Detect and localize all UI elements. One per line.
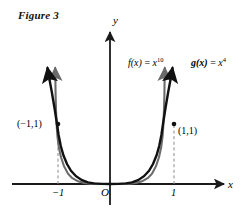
curve-label-g-exponent: 4 xyxy=(223,56,226,63)
curve-label-g-name: g(x) xyxy=(191,57,208,68)
curve-label-f-name: f(x) xyxy=(128,57,142,68)
x-axis-label: x xyxy=(228,178,233,190)
curve-label-g-equals: = xyxy=(208,57,219,68)
y-axis-label: y xyxy=(113,14,118,26)
point-marker-neg1-1 xyxy=(56,122,61,127)
curve-label-f: f(x) = x10 xyxy=(128,57,163,68)
x-tick-label-pos1: 1 xyxy=(171,187,176,198)
point-label-neg1-1: (−1,1) xyxy=(17,118,42,129)
plot-canvas xyxy=(0,0,248,213)
figure-container: Figure 3 xyxy=(0,0,248,213)
curve-label-g: g(x) = x4 xyxy=(191,57,226,68)
point-label-1-1: (1,1) xyxy=(178,125,197,136)
curve-label-f-equals: = xyxy=(142,57,153,68)
curve-g-right-branch xyxy=(110,68,173,184)
curve-f-left-branch xyxy=(55,68,110,184)
point-marker-1-1 xyxy=(172,122,177,127)
origin-label: O xyxy=(101,186,109,198)
curve-f-right-branch xyxy=(110,68,165,184)
x-tick-label-neg1: −1 xyxy=(52,187,64,198)
curve-label-f-exponent: 10 xyxy=(157,56,164,63)
